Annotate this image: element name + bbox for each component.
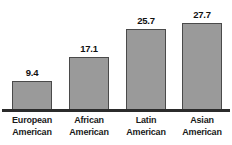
category-label-line: American (59, 127, 119, 139)
category-label-line: Latin (116, 115, 176, 127)
bar-value-label: 27.7 (182, 9, 222, 20)
x-axis-baseline (2, 109, 230, 112)
bar-rect (69, 57, 109, 111)
bar-group-0: 9.4 (12, 8, 52, 111)
bar-group-1: 17.1 (69, 8, 109, 111)
bar-rect (126, 29, 166, 111)
category-label-line: Asian (172, 115, 232, 127)
category-label-1: African American (59, 115, 119, 138)
bar-chart-figure: 9.4 17.1 25.7 27.7 European American Afr… (0, 0, 232, 145)
category-label-line: European (2, 115, 62, 127)
bar-rect (12, 81, 52, 111)
category-label-0: European American (2, 115, 62, 138)
bar-group-3: 27.7 (182, 8, 222, 111)
bar-value-label: 17.1 (69, 43, 109, 54)
bar-value-label: 25.7 (126, 15, 166, 26)
category-label-2: Latin American (116, 115, 176, 138)
bar-rect (182, 23, 222, 111)
bar-group-2: 25.7 (126, 8, 166, 111)
chart-title-remnant (0, 0, 232, 7)
category-axis: European American African American Latin… (0, 115, 232, 145)
category-label-line: American (2, 127, 62, 139)
category-label-line: American (116, 127, 176, 139)
category-label-line: American (172, 127, 232, 139)
category-label-3: Asian American (172, 115, 232, 138)
category-label-line: African (59, 115, 119, 127)
bar-value-label: 9.4 (12, 67, 52, 78)
plot-area: 9.4 17.1 25.7 27.7 (0, 8, 232, 111)
